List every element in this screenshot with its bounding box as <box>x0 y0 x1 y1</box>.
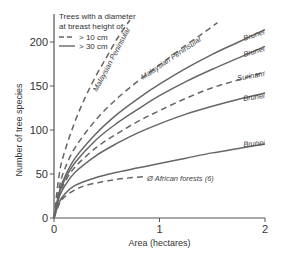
y-tick-label: 200 <box>30 36 48 48</box>
curve-label: Brunei <box>242 44 266 59</box>
curve-label: Brunei <box>242 27 266 42</box>
curve-label: Malaysian Peninsular <box>139 34 204 82</box>
y-axis-title: Number of tree species <box>14 83 24 177</box>
legend-title-line1: Trees with a diameter <box>59 12 136 21</box>
y-tick-label: 100 <box>30 124 48 136</box>
curve-brunei <box>54 93 265 218</box>
x-axis-title: Area (hectares) <box>128 238 190 248</box>
x-tick-label: 1 <box>156 223 162 235</box>
y-tick-label: 50 <box>36 168 48 180</box>
curve-label: Ø African forests (6) <box>146 174 214 183</box>
species-area-chart: 050100150200012Area (hectares)Number of … <box>0 0 283 263</box>
legend-entry-30cm: > 30 cm <box>79 42 108 51</box>
y-tick-label: 150 <box>30 80 48 92</box>
x-tick-label: 0 <box>51 223 57 235</box>
curve-label: Brunei <box>243 138 266 149</box>
x-tick-label: 2 <box>262 223 268 235</box>
legend-entry-10cm: > 10 cm <box>79 33 108 42</box>
y-tick-label: 0 <box>42 212 48 224</box>
curve-label: Surinam <box>236 69 265 83</box>
curve-label: Brunei <box>243 91 266 103</box>
legend-title-line2: at breast height of: <box>59 22 125 31</box>
